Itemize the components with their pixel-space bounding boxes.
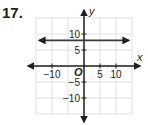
y-axis-label: y bbox=[88, 5, 96, 17]
y-tick-label: 5 bbox=[74, 45, 80, 56]
x-axis-label: x bbox=[136, 51, 143, 63]
y-tick-label: −5 bbox=[69, 77, 81, 88]
coordinate-plane: −10510105−5−10xyO bbox=[0, 0, 148, 125]
x-tick-label: 5 bbox=[97, 69, 103, 80]
y-tick-label: −10 bbox=[63, 93, 80, 104]
labels: −10510105−5−10xyO bbox=[44, 5, 143, 104]
y-tick-label: 10 bbox=[69, 29, 81, 40]
axes bbox=[28, 10, 140, 122]
x-tick-label: 10 bbox=[110, 69, 122, 80]
origin-label: O bbox=[74, 66, 83, 78]
x-tick-label: −10 bbox=[44, 69, 61, 80]
